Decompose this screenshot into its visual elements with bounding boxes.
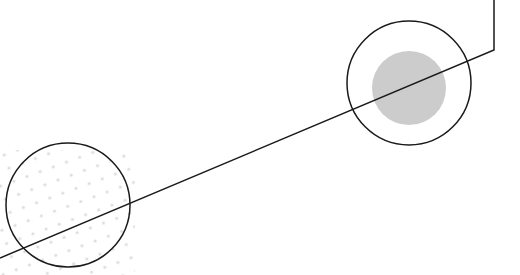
gray-disc — [372, 51, 446, 125]
decorative-graphic — [0, 0, 520, 275]
illustration — [0, 0, 520, 275]
dot-pattern-area — [0, 150, 135, 275]
